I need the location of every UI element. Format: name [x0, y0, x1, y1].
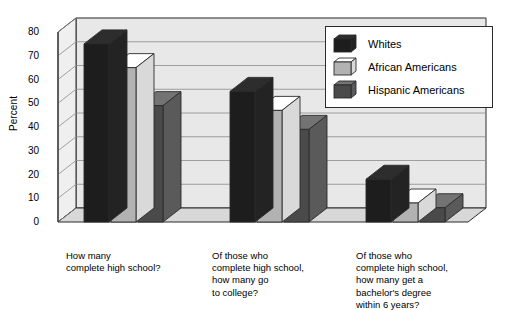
bar-chart: Percent 80706050403020100 Whites African…: [0, 0, 507, 310]
y-axis-tick-label: 30: [13, 146, 39, 156]
y-axis-tick-labels: 80706050403020100: [13, 0, 39, 310]
bar: [230, 77, 273, 222]
x-axis-category-label: How many complete high school?: [66, 250, 161, 274]
legend-item: African Americans: [333, 55, 486, 78]
y-axis-tick-label: 70: [13, 51, 39, 61]
y-axis-tick-label: 80: [13, 27, 39, 37]
legend-item: Whites: [333, 32, 486, 55]
legend-item-label: Whites: [368, 38, 402, 50]
legend-swatch-icon: [333, 80, 359, 99]
legend-item-label: African Americans: [368, 61, 457, 73]
legend-item-label: Hispanic Americans: [368, 84, 465, 96]
y-axis-tick-label: 50: [13, 98, 39, 108]
x-axis-category-label: Of those who complete high school, how m…: [212, 250, 304, 299]
legend-swatch-icon: [333, 34, 359, 53]
y-axis-tick-label: 60: [13, 75, 39, 85]
bar: [366, 165, 409, 222]
y-axis-tick-label: 0: [13, 217, 39, 227]
y-axis-tick-label: 10: [13, 193, 39, 203]
legend-item: Hispanic Americans: [333, 78, 486, 101]
legend: Whites African Americans Hispanic Americ…: [325, 26, 493, 108]
legend-swatch-icon: [333, 57, 359, 76]
x-axis-category-label: Of those who complete high school, how m…: [356, 250, 448, 310]
y-axis-tick-label: 40: [13, 122, 39, 132]
y-axis-tick-label: 20: [13, 170, 39, 180]
bar: [84, 30, 127, 222]
